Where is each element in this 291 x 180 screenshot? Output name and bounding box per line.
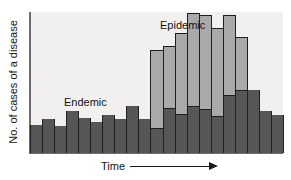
bar-segment-endemic [91, 122, 102, 153]
bar-segment-endemic [79, 118, 90, 153]
annotation-endemic: Endemic [64, 96, 107, 108]
bar-segment-endemic [236, 90, 247, 153]
bar-segment-endemic [151, 128, 162, 153]
bar [271, 115, 284, 153]
chart-figure: No. of cases of a disease Endemic Epidem… [0, 0, 291, 180]
bar-segment-epidemic [212, 29, 223, 118]
bar-segment-endemic [176, 114, 187, 153]
bar-segment-endemic [31, 125, 42, 153]
bar-segment-endemic [188, 106, 199, 153]
bar-segment-endemic [200, 109, 211, 153]
bar-segment-endemic [55, 126, 66, 153]
bar-segment-endemic [43, 119, 54, 153]
bar-segment-endemic [224, 95, 235, 153]
bar-segment-epidemic [224, 16, 235, 96]
bar-segment-epidemic [176, 34, 187, 114]
y-axis-title: No. of cases of a disease [7, 7, 19, 157]
bar-segment-epidemic [151, 51, 162, 129]
annotation-epidemic: Epidemic [160, 19, 205, 31]
bar-segment-endemic [260, 111, 271, 153]
time-arrow-icon [130, 162, 218, 171]
bar-segment-endemic [67, 111, 78, 153]
bar-segment-epidemic [236, 38, 247, 90]
bar-segment-endemic [139, 119, 150, 153]
bar-segment-epidemic [164, 47, 175, 109]
bar-segment-endemic [127, 106, 138, 153]
bar-segment-endemic [248, 90, 259, 153]
x-axis-caption: Time [101, 160, 218, 172]
arrow-line [130, 166, 210, 168]
bar-segment-endemic [272, 115, 283, 153]
bar-segment-endemic [103, 115, 114, 153]
x-axis-title: Time [101, 160, 125, 172]
arrow-head [209, 162, 218, 170]
bar-segment-endemic [164, 108, 175, 153]
bar-segment-endemic [212, 116, 223, 153]
bar-segment-endemic [115, 119, 126, 153]
